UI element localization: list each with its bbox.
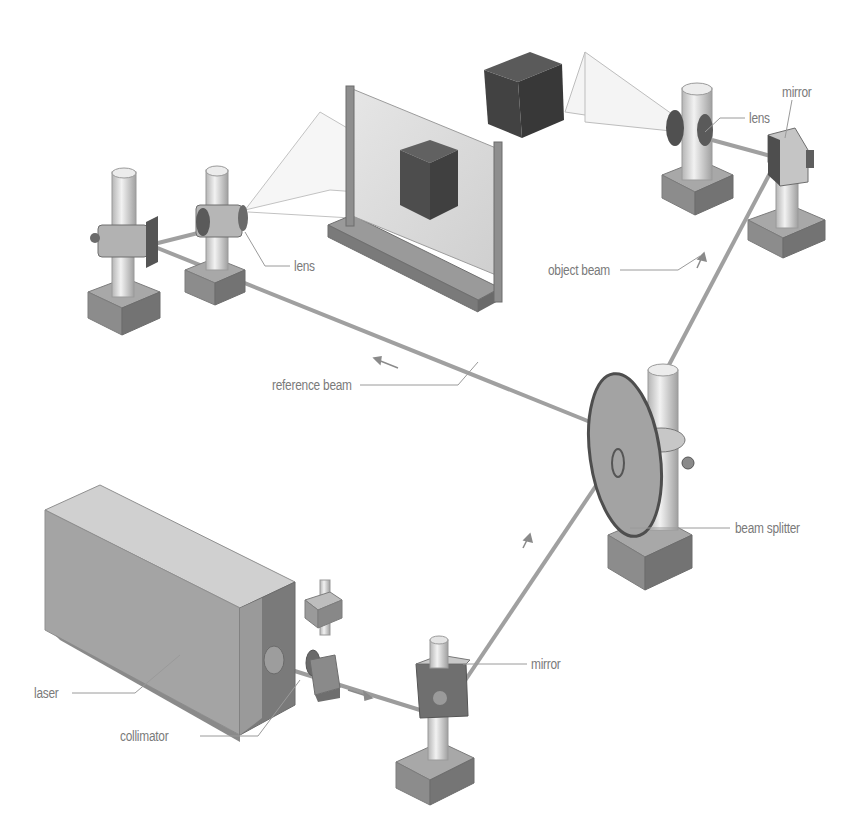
laser-icon bbox=[45, 485, 295, 742]
holographic-plate-icon bbox=[328, 86, 502, 312]
label-lens-left: lens bbox=[294, 258, 315, 274]
label-collimator: collimator bbox=[120, 728, 168, 744]
label-reference-beam: reference beam bbox=[272, 377, 352, 393]
label-mirror-bottom: mirror bbox=[531, 656, 561, 672]
label-mirror-top: mirror bbox=[782, 84, 812, 100]
mirror-left-icon bbox=[88, 168, 160, 335]
label-lens-top: lens bbox=[749, 110, 770, 126]
label-laser: laser bbox=[34, 685, 59, 701]
object-cube-icon bbox=[484, 52, 564, 138]
mirror-bottom-icon bbox=[396, 636, 474, 805]
holography-diagram: lens mirror lens object beam reference b… bbox=[0, 0, 862, 814]
collimator-icon bbox=[305, 580, 342, 702]
diagram-canvas bbox=[0, 0, 862, 814]
label-beam-splitter: beam splitter bbox=[735, 520, 800, 536]
beam-splitter-icon bbox=[579, 364, 694, 590]
lens-top-right-icon bbox=[662, 83, 733, 215]
label-object-beam: object beam bbox=[548, 262, 610, 278]
